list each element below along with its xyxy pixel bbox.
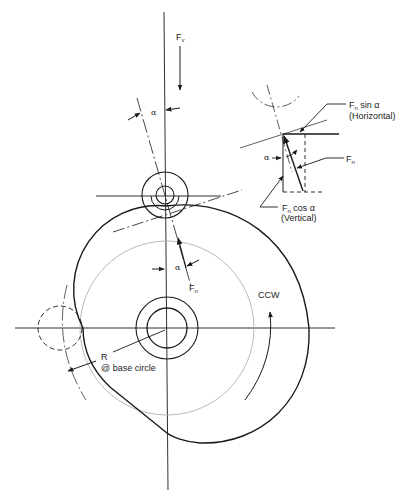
fn-label-sub: n: [195, 288, 198, 294]
vertical-label: (Vertical): [281, 213, 317, 223]
inset-fn-sub: n: [352, 159, 355, 165]
alpha-mid-arrow-right: [187, 260, 199, 266]
ccw-label: CCW: [258, 290, 280, 300]
r-leader-line: [113, 330, 165, 352]
cam-profile: [74, 205, 309, 443]
force-triangle-inset: [240, 85, 346, 207]
fv-label: Fv: [176, 32, 185, 45]
vertical-centerline: [164, 12, 168, 490]
r-arrow: [68, 361, 96, 371]
cam-diagram: [0, 0, 410, 490]
horizontal-label: (Horizontal): [349, 111, 396, 121]
fn-cos-text: cos α: [291, 203, 315, 213]
inset-fn-label: Fn: [346, 154, 355, 167]
roller-bearing-arc: [151, 196, 179, 210]
alpha-mid-label: α: [175, 263, 180, 273]
alpha-top-arrow-left: [128, 113, 140, 120]
inset-alpha-label: α: [264, 153, 269, 163]
fn-sin-text: sin α: [358, 100, 380, 110]
r-label: R: [101, 352, 108, 362]
base-circle-label: @ base circle: [101, 363, 156, 373]
fv-label-sub: v: [182, 37, 185, 43]
fn-label: Fn: [189, 283, 198, 296]
alpha-top-arrow-right: [166, 108, 180, 110]
alpha-top-label: α: [151, 108, 156, 118]
ccw-rotation-arrow: [245, 312, 271, 400]
